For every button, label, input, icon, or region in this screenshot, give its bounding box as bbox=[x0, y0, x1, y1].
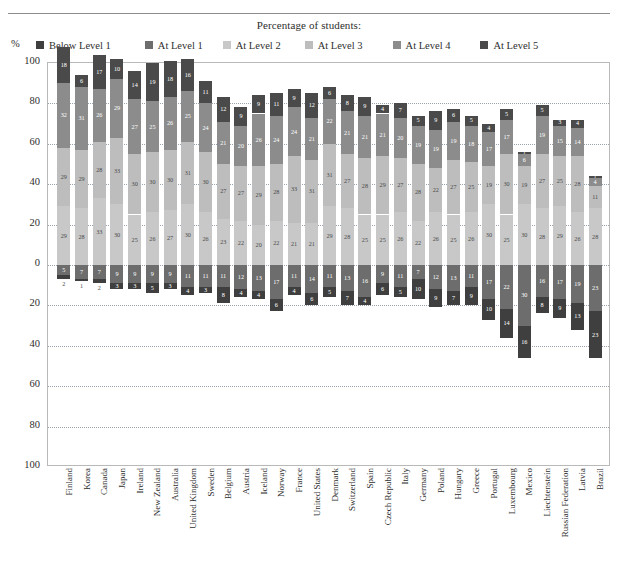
bar-denmark[interactable]: 2931226115 bbox=[323, 63, 336, 467]
segment-at-level-5: 6 bbox=[75, 75, 88, 87]
legend-swatch-at-level-4 bbox=[393, 41, 401, 49]
segment-value: 5 bbox=[328, 289, 331, 295]
bar-latvia[interactable]: 26281441913 bbox=[571, 63, 584, 467]
legend-item-at-level-5[interactable]: At Level 5 bbox=[480, 40, 538, 51]
legend-swatch-at-level-5 bbox=[480, 41, 488, 49]
segment-at-level-2: 25 bbox=[500, 215, 513, 266]
legend-item-at-level-4[interactable]: At Level 4 bbox=[393, 40, 451, 51]
legend-item-below-level-1[interactable]: Below Level 1 bbox=[36, 40, 111, 51]
segment-below-level-1: 5 bbox=[394, 287, 407, 297]
segment-value: 27 bbox=[238, 190, 244, 196]
bar-korea[interactable]: 28293167 bbox=[75, 63, 88, 467]
bar-russian-federation[interactable]: 2925153179 bbox=[553, 63, 566, 467]
x-label-norway: Norway bbox=[269, 468, 282, 564]
bar-hungary[interactable]: 2527196137 bbox=[447, 63, 460, 467]
bar-greece[interactable]: 2625185119 bbox=[465, 63, 478, 467]
bar-mexico[interactable]: 3019613016 bbox=[518, 63, 531, 467]
bar-switzerland[interactable]: 2827218137 bbox=[341, 63, 354, 467]
segment-value: 9 bbox=[133, 271, 136, 277]
segment-at-level-2: 29 bbox=[57, 206, 70, 265]
bar-italy[interactable]: 2627207115 bbox=[394, 63, 407, 467]
x-label-latvia: Latvia bbox=[570, 468, 583, 564]
bar-germany[interactable]: 2228195710 bbox=[412, 63, 425, 467]
segment-value: 30 bbox=[521, 292, 527, 298]
segment-value: 21 bbox=[220, 140, 226, 146]
segment-at-level-4: 19 bbox=[412, 126, 425, 164]
bar-sweden[interactable]: 26302411113 bbox=[199, 63, 212, 467]
segment-value: 11 bbox=[273, 101, 279, 107]
bar-czech-republic[interactable]: 252921496 bbox=[376, 63, 389, 467]
segment-at-level-5: 10 bbox=[110, 59, 123, 79]
bar-new-zealand[interactable]: 2630251995 bbox=[146, 63, 159, 467]
segment-at-level-4: 24 bbox=[270, 116, 283, 164]
segment-at-level-2: 29 bbox=[323, 206, 336, 265]
legend-item-at-level-3[interactable]: At Level 3 bbox=[305, 40, 363, 51]
segment-at-level-4: 26 bbox=[164, 97, 177, 150]
segment-at-level-5: 1 bbox=[589, 176, 602, 178]
segment-at-level-5: 5 bbox=[465, 116, 478, 126]
segment-at-level-4: 21 bbox=[358, 116, 371, 158]
segment-at-level-1: 12 bbox=[234, 265, 247, 289]
segment-below-level-1: 7 bbox=[341, 291, 354, 305]
bar-united-kingdom[interactable]: 30312516114 bbox=[181, 63, 194, 467]
segment-at-level-1: 17 bbox=[270, 265, 283, 299]
segment-value: 26 bbox=[468, 236, 474, 242]
legend-item-at-level-1[interactable]: At Level 1 bbox=[145, 40, 203, 51]
x-label-japan: Japan bbox=[109, 468, 122, 564]
segment-at-level-3: 27 bbox=[217, 164, 230, 219]
segment-at-level-5: 17 bbox=[93, 55, 106, 89]
segment-at-level-5: 11 bbox=[270, 93, 283, 115]
segment-below-level-1: 16 bbox=[518, 326, 531, 358]
segment-value: 9 bbox=[558, 305, 561, 311]
segment-value: 21 bbox=[362, 134, 368, 140]
segment-value: 30 bbox=[504, 181, 510, 187]
segment-value: 18 bbox=[167, 76, 173, 82]
y-tick-label: 100 bbox=[0, 55, 40, 66]
bar-australia[interactable]: 2730261893 bbox=[164, 63, 177, 467]
segment-value: 20 bbox=[256, 242, 262, 248]
segment-value: 31 bbox=[185, 170, 191, 176]
bar-france[interactable]: 2133249114 bbox=[288, 63, 301, 467]
bar-poland[interactable]: 2622199129 bbox=[429, 63, 442, 467]
segment-at-level-4: 19 bbox=[429, 130, 442, 168]
segment-at-level-5: 14 bbox=[128, 71, 141, 99]
bar-austria[interactable]: 2227209124 bbox=[234, 63, 247, 467]
segment-value: 28 bbox=[539, 234, 545, 240]
bar-ireland[interactable]: 2530271493 bbox=[128, 63, 141, 467]
bar-canada[interactable]: 332826177 bbox=[93, 63, 106, 467]
segment-at-level-2: 26 bbox=[429, 212, 442, 265]
segment-value: 25 bbox=[504, 237, 510, 243]
bar-iceland[interactable]: 2029269134 bbox=[252, 63, 265, 467]
segment-value: 19 bbox=[539, 132, 545, 138]
segment-value: 13 bbox=[344, 275, 350, 281]
segment-at-level-2: 28 bbox=[589, 208, 602, 265]
segment-below-level-1: 6 bbox=[376, 283, 389, 295]
bar-belgium[interactable]: 23272112118 bbox=[217, 63, 230, 467]
bar-norway[interactable]: 22282411176 bbox=[270, 63, 283, 467]
segment-at-level-4: 19 bbox=[447, 122, 460, 160]
segment-at-level-1: 17 bbox=[553, 265, 566, 299]
x-label-sweden: Sweden bbox=[198, 468, 211, 564]
segment-value: 25 bbox=[185, 113, 191, 119]
bar-united-states[interactable]: 21312112146 bbox=[305, 63, 318, 467]
bar-japan[interactable]: 3033291093 bbox=[110, 63, 123, 467]
segment-below-level-1: 4 bbox=[234, 289, 247, 297]
bar-luxembourg[interactable]: 25301752214 bbox=[500, 63, 513, 467]
segment-at-level-2: 26 bbox=[394, 212, 407, 265]
segment-value: 28 bbox=[96, 167, 102, 173]
segment-value: 21 bbox=[344, 130, 350, 136]
segment-at-level-3: 28 bbox=[412, 164, 425, 221]
segment-below-level-1 bbox=[75, 279, 88, 281]
bar-finland[interactable]: 292932185 bbox=[57, 63, 70, 467]
bar-brazil[interactable]: 2811412323 bbox=[589, 63, 602, 467]
legend-item-at-level-2[interactable]: At Level 2 bbox=[223, 40, 281, 51]
segment-at-level-5: 12 bbox=[305, 93, 318, 117]
segment-value: 17 bbox=[96, 69, 102, 75]
segment-value: 8 bbox=[346, 100, 349, 106]
segment-value: 7 bbox=[417, 269, 420, 275]
bar-liechtenstein[interactable]: 2827195168 bbox=[536, 63, 549, 467]
segment-below-level-1: 4 bbox=[181, 287, 194, 295]
bar-spain[interactable]: 2528219164 bbox=[358, 63, 371, 467]
bar-portugal[interactable]: 30191741710 bbox=[482, 63, 495, 467]
segment-value: 13 bbox=[256, 275, 262, 281]
